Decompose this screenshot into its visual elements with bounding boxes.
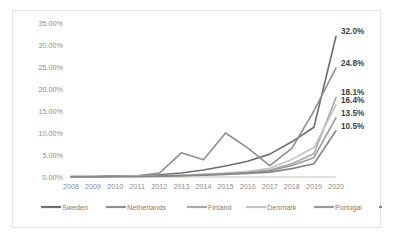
legend-label-finland[interactable]: Finland [208, 203, 232, 212]
series-line-sweden [71, 36, 336, 176]
data-label-sweden: 32.0% [341, 27, 365, 36]
x-axis-tick-label: 2016 [240, 182, 256, 191]
y-axis-tick-label: 35.00% [39, 19, 64, 28]
series-line-finland [71, 97, 336, 177]
x-axis-tick-label: 2009 [85, 182, 101, 191]
x-axis-tick-label: 2015 [218, 182, 234, 191]
y-axis-tick-label: 0.00% [43, 173, 64, 182]
legend-label-portugal[interactable]: Portugal [335, 203, 362, 212]
line-chart: 0.00%5.00%10.00%15.00%20.00%25.00%30.00%… [13, 11, 382, 229]
x-axis-tick-label: 2013 [173, 182, 189, 191]
data-label-denmark: 16.4% [341, 96, 365, 105]
legend-label-denmark[interactable]: Denmark [267, 203, 297, 212]
y-axis-tick-label: 25.00% [39, 63, 64, 72]
y-axis-tick-label: 30.00% [39, 41, 64, 50]
y-axis-tick-label: 10.00% [39, 129, 64, 138]
data-label-portugal: 13.5% [341, 109, 365, 118]
x-axis-tick-label: 2017 [262, 182, 278, 191]
series-line-netherlands [71, 68, 336, 177]
y-axis-tick-label: 20.00% [39, 85, 64, 94]
y-axis-tick-label: 15.00% [39, 107, 64, 116]
x-axis-tick-label: 2018 [284, 182, 300, 191]
x-axis-tick-label: 2014 [196, 182, 212, 191]
legend-label-sweden[interactable]: Sweden [62, 203, 88, 212]
y-axis-tick-label: 5.00% [43, 151, 64, 160]
x-axis-tick-label: 2008 [63, 182, 79, 191]
legend-label-netherlands[interactable]: Netherlands [127, 203, 166, 212]
data-label-eu: 10.5% [341, 122, 365, 131]
data-label-netherlands: 24.8% [341, 59, 365, 68]
chart-container: 0.00%5.00%10.00%15.00%20.00%25.00%30.00%… [12, 10, 381, 228]
x-axis-tick-label: 2012 [151, 182, 167, 191]
plot-area: 0.00%5.00%10.00%15.00%20.00%25.00%30.00%… [13, 11, 380, 227]
x-axis-tick-label: 2019 [306, 182, 322, 191]
x-axis-tick-label: 2010 [107, 182, 123, 191]
x-axis-tick-label: 2020 [328, 182, 344, 191]
x-axis-tick-label: 2011 [130, 182, 145, 191]
